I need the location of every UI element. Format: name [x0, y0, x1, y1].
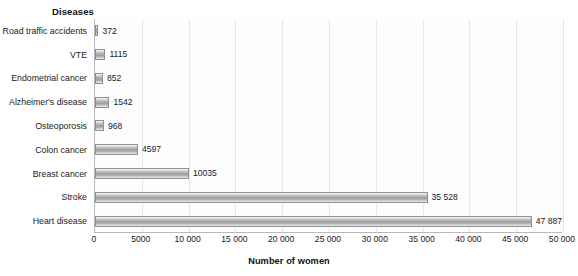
bar: [95, 216, 532, 227]
bar-row: 4597: [95, 138, 562, 162]
category-label: VTE: [0, 43, 90, 67]
x-tick-label: 10 000: [174, 234, 200, 244]
bar-value-label: 372: [102, 27, 116, 36]
bar-value-label: 10035: [193, 169, 217, 178]
category-label: Osteoporosis: [0, 114, 90, 138]
bar-value-label: 4597: [142, 145, 161, 154]
bar: [95, 192, 428, 203]
bar-row: 1542: [95, 90, 562, 114]
category-label: Stroke: [0, 185, 90, 209]
x-axis-title: Number of women: [0, 256, 578, 266]
bar-series: 3721115852154296845971003535 52847 887: [95, 19, 562, 232]
bar: [95, 144, 138, 155]
bar-row: 1115: [95, 43, 562, 67]
bar: [95, 25, 98, 36]
x-tick-label: 5000: [131, 234, 150, 244]
category-label: Endometrial cancer: [0, 67, 90, 91]
bar: [95, 97, 109, 108]
bar-value-label: 35 528: [432, 193, 458, 202]
x-tick-label: 20 000: [268, 234, 294, 244]
gridline: [563, 19, 564, 232]
bar: [95, 49, 105, 60]
x-tick-label: 25 000: [315, 234, 341, 244]
x-tick-label: 40 000: [455, 234, 481, 244]
x-tick-label: 30 000: [362, 234, 388, 244]
y-axis-title: Diseases: [52, 6, 94, 17]
bar-chart: Diseases Road traffic accidentsVTEEndome…: [0, 0, 578, 276]
bar: [95, 120, 104, 131]
x-axis-ticks: 0500010 00015 00020 00025 00030 00035 00…: [94, 234, 562, 248]
category-axis-labels: Road traffic accidentsVTEEndometrial can…: [0, 19, 90, 233]
bar-row: 968: [95, 114, 562, 138]
bar-value-label: 1542: [113, 98, 132, 107]
bar-row: 852: [95, 67, 562, 91]
category-label: Breast cancer: [0, 162, 90, 186]
x-tick-label: 45 000: [502, 234, 528, 244]
plot-area: 3721115852154296845971003535 52847 887: [94, 19, 562, 233]
bar-value-label: 852: [107, 74, 121, 83]
bar-row: 35 528: [95, 185, 562, 209]
bar-value-label: 47 887: [536, 217, 562, 226]
bar-row: 10035: [95, 162, 562, 186]
category-label: Colon cancer: [0, 138, 90, 162]
bar-value-label: 1115: [109, 50, 127, 59]
x-tick-label: 0: [92, 234, 97, 244]
category-label: Alzheimer's disease: [0, 90, 90, 114]
bar: [95, 73, 103, 84]
bar-value-label: 968: [108, 122, 122, 131]
x-tick-label: 50 000: [549, 234, 575, 244]
bar-row: 372: [95, 19, 562, 43]
category-label: Heart disease: [0, 209, 90, 233]
x-tick-label: 35 000: [408, 234, 434, 244]
category-label: Road traffic accidents: [0, 19, 90, 43]
bar-row: 47 887: [95, 209, 562, 233]
x-tick-label: 15 000: [221, 234, 247, 244]
bar: [95, 168, 189, 179]
